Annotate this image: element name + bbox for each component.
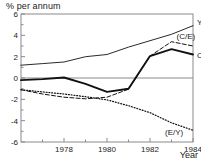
series-label-y: Y	[197, 18, 201, 27]
y-tick-label: 2	[14, 53, 19, 62]
y-tick-label: 6	[14, 10, 19, 19]
series-line-y	[21, 26, 193, 65]
series-label-c: C	[197, 51, 201, 60]
y-tick-label: -6	[11, 138, 19, 147]
series-label-ce: (C/E)	[177, 32, 196, 41]
chart-figure: % per annum Year 6420-2-4-61978198019821…	[0, 0, 201, 164]
y-tick-label: -4	[11, 117, 19, 126]
x-tick-label: 1978	[55, 145, 73, 154]
x-tick-label: 1980	[98, 145, 116, 154]
plot-canvas: 6420-2-4-61978198019821984Y(C/E)C(E/Y)	[0, 0, 201, 164]
series-line-c	[21, 49, 193, 92]
x-tick-label: 1982	[141, 145, 159, 154]
x-tick-label: 1984	[184, 145, 201, 154]
series-label-ey: (E/Y)	[165, 128, 184, 137]
y-tick-label: -2	[11, 95, 19, 104]
y-tick-label: 0	[14, 74, 19, 83]
y-tick-label: 4	[14, 31, 19, 40]
series-line-ey	[21, 90, 193, 131]
